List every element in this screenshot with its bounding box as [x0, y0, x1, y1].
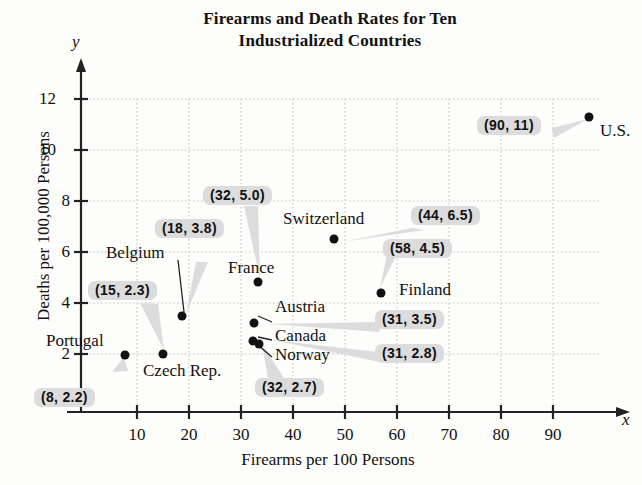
x-tick-label-40: 40	[278, 425, 308, 445]
country-label-belgium: Belgium	[106, 243, 165, 263]
country-label-france: France	[228, 258, 274, 278]
callout-canada[interactable]: (31, 2.8)	[375, 344, 444, 363]
x-tick-label-70: 70	[434, 425, 464, 445]
y-tick-label-8: 8	[44, 191, 70, 211]
chart-title: Firearms and Death Rates for Ten Industr…	[130, 8, 530, 52]
callout-france[interactable]: (32, 5.0)	[203, 186, 272, 205]
callout-norway[interactable]: (32, 2.7)	[255, 378, 324, 397]
data-point-norway[interactable]	[255, 340, 264, 349]
callout-austria[interactable]: (31, 3.5)	[375, 310, 444, 329]
country-label-norway: Norway	[275, 345, 330, 365]
callout-portugal[interactable]: (8, 2.2)	[34, 388, 95, 407]
scatter-chart: Firearms and Death Rates for Ten Industr…	[0, 0, 642, 485]
data-point-austria[interactable]	[250, 319, 259, 328]
country-label-switzerland: Switzerland	[283, 209, 364, 229]
country-label-austria: Austria	[275, 297, 325, 317]
x-axis-letter: x	[622, 410, 630, 430]
y-tick-label-6: 6	[44, 242, 70, 262]
callout-us[interactable]: (90, 11)	[477, 116, 541, 135]
country-label-canada: Canada	[275, 326, 326, 346]
country-label-czech: Czech Rep.	[143, 361, 221, 381]
data-point-france[interactable]	[254, 278, 263, 287]
callout-czech[interactable]: (15, 2.3)	[88, 281, 157, 300]
data-point-czech[interactable]	[159, 350, 168, 359]
x-tick-label-20: 20	[174, 425, 204, 445]
chart-axes-and-grid	[0, 0, 642, 485]
x-tick-label-10: 10	[122, 425, 152, 445]
x-tick-label-30: 30	[226, 425, 256, 445]
data-point-switzerland[interactable]	[330, 235, 339, 244]
data-point-finland[interactable]	[377, 289, 386, 298]
country-label-portugal: Portugal	[46, 331, 104, 351]
callout-belgium[interactable]: (18, 3.8)	[155, 219, 224, 238]
y-tick-label-10: 10	[30, 140, 56, 160]
data-point-portugal[interactable]	[121, 351, 130, 360]
x-tick-label-90: 90	[538, 425, 568, 445]
x-tick-label-60: 60	[382, 425, 412, 445]
data-point-us[interactable]	[585, 113, 594, 122]
callout-switzerland[interactable]: (44, 6.5)	[411, 206, 480, 225]
country-label-us: U.S.	[600, 121, 630, 141]
y-axis-letter: y	[72, 32, 80, 52]
y-tick-label-12: 12	[30, 89, 56, 109]
x-axis-title: Firearms per 100 Persons	[178, 450, 478, 470]
x-tick-label-50: 50	[330, 425, 360, 445]
chart-title-line-1: Firearms and Death Rates for Ten	[130, 8, 530, 30]
data-point-belgium[interactable]	[178, 312, 187, 321]
chart-title-line-2: Industrialized Countries	[130, 30, 530, 52]
country-label-finland: Finland	[399, 280, 451, 300]
x-tick-label-80: 80	[486, 425, 516, 445]
callout-finland[interactable]: (58, 4.5)	[383, 239, 452, 258]
y-tick-label-4: 4	[44, 293, 70, 313]
